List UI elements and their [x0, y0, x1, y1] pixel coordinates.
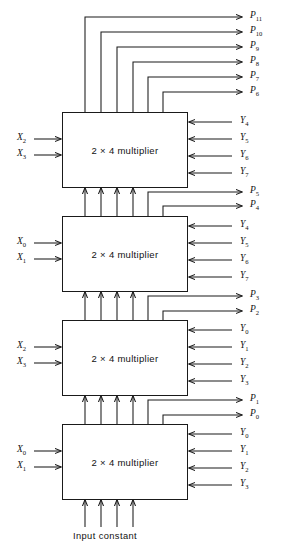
input-label-y5-top: Y5: [240, 132, 249, 144]
wire-p6: [163, 92, 242, 112]
output-label-p5: P5: [250, 185, 259, 197]
wire-p3: [148, 296, 242, 320]
output-label-p3: P3: [250, 289, 259, 301]
input-label-y7-second: Y7: [240, 270, 249, 282]
input-label-y0-third: Y0: [240, 323, 249, 335]
input-label-y4-second: Y4: [240, 219, 249, 231]
input-label-y7-top: Y7: [240, 166, 249, 178]
input-label-x2-top: X2: [17, 132, 26, 144]
input-label-x0-bottom: X0: [17, 444, 26, 456]
input-label-x0-second: X0: [17, 236, 26, 248]
input-label-y1-third: Y1: [240, 340, 249, 352]
output-label-p6: P6: [250, 85, 259, 97]
mult-block-third[interactable]: 2 × 4 multiplier: [62, 320, 188, 396]
input-label-x3-third: X3: [17, 356, 26, 368]
input-label-y2-third: Y2: [240, 357, 249, 369]
wire-p9: [117, 47, 242, 112]
input-label-y6-top: Y6: [240, 149, 249, 161]
mult-block-second[interactable]: 2 × 4 multiplier: [62, 216, 188, 292]
input-label-y2-bottom: Y2: [240, 461, 249, 473]
output-label-p8: P8: [250, 55, 259, 67]
mult-block-top-label: 2 × 4 multiplier: [92, 145, 159, 156]
mult-block-top[interactable]: 2 × 4 multiplier: [62, 112, 188, 188]
input-label-y1-bottom: Y1: [240, 444, 249, 456]
wire-p1: [148, 400, 242, 424]
output-label-p7: P7: [250, 70, 259, 82]
wire-p0: [163, 415, 242, 424]
input-label-y6-second: Y6: [240, 253, 249, 265]
multiplier-array-diagram: 2 × 4 multiplier X2 X3 Y4 Y5 Y6 Y7 2 × 4…: [0, 0, 288, 553]
input-label-x1-bottom: X1: [17, 460, 26, 472]
input-label-y5-second: Y5: [240, 236, 249, 248]
input-label-x2-third: X2: [17, 340, 26, 352]
input-label-y3-third: Y3: [240, 374, 249, 386]
wire-p2: [163, 311, 242, 320]
input-label-y3-bottom: Y3: [240, 478, 249, 490]
input-constant-label: Input constant: [73, 531, 137, 541]
output-label-p0: P0: [250, 408, 259, 420]
output-label-p9: P9: [250, 40, 259, 52]
input-label-y4-top: Y4: [240, 115, 249, 127]
wire-p10: [101, 32, 242, 112]
mult-block-third-label: 2 × 4 multiplier: [92, 353, 159, 364]
output-label-p11: P11: [250, 10, 262, 22]
output-label-p1: P1: [250, 393, 259, 405]
output-label-p4: P4: [250, 199, 259, 211]
input-label-y0-bottom: Y0: [240, 427, 249, 439]
mult-block-bottom-label: 2 × 4 multiplier: [92, 457, 159, 468]
mult-block-bottom[interactable]: 2 × 4 multiplier: [62, 424, 188, 500]
wire-p4: [163, 206, 242, 216]
wire-p8: [133, 62, 242, 112]
input-label-x1-second: X1: [17, 252, 26, 264]
input-label-x3-top: X3: [17, 148, 26, 160]
mult-block-second-label: 2 × 4 multiplier: [92, 249, 159, 260]
wire-p7: [148, 77, 242, 112]
output-label-p2: P2: [250, 304, 259, 316]
output-label-p10: P10: [250, 25, 262, 37]
wire-p5: [148, 192, 242, 216]
